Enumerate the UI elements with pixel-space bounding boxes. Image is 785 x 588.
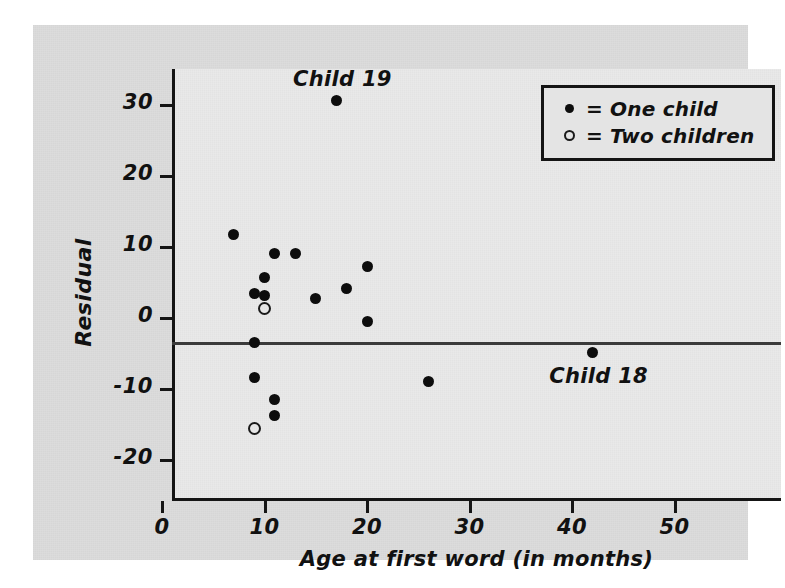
data-point-one-child	[259, 290, 270, 301]
x-tick	[469, 501, 472, 513]
x-tick	[366, 501, 369, 513]
x-tick-label: 20	[332, 515, 402, 539]
data-point-one-child	[249, 288, 260, 299]
zero-reference-line	[172, 342, 781, 345]
data-point-one-child	[249, 372, 260, 383]
y-tick-label: -20	[85, 445, 153, 469]
data-point-one-child	[269, 410, 280, 421]
y-tick-label: 30	[85, 90, 153, 114]
data-point-one-child	[290, 248, 301, 259]
point-annotation-child-18: Child 18	[549, 364, 648, 388]
legend-row: = One child	[560, 95, 754, 122]
y-tick	[160, 459, 173, 462]
point-annotation-child-19: Child 19	[293, 67, 392, 91]
y-tick-label: 20	[85, 161, 153, 185]
y-axis-title: Residual	[71, 238, 96, 346]
legend-row: = Two children	[560, 122, 754, 149]
y-tick	[160, 104, 173, 107]
legend-marker-glyph	[565, 104, 574, 113]
x-tick-label: 50	[640, 515, 710, 539]
x-axis-title: Age at first word (in months)	[172, 547, 781, 571]
y-tick	[160, 246, 173, 249]
data-point-one-child	[331, 95, 342, 106]
y-axis-line	[172, 69, 175, 501]
data-point-one-child	[249, 337, 260, 348]
data-point-one-child	[362, 316, 373, 327]
filled-circle-icon	[560, 104, 578, 113]
x-tick-label: 30	[435, 515, 505, 539]
figure-panel: 3020100-10-20 01020304050 Residual Age a…	[33, 25, 748, 560]
y-tick	[160, 175, 173, 178]
x-tick-label: 10	[230, 515, 300, 539]
data-point-two-children	[248, 422, 261, 435]
y-tick-label: -10	[85, 374, 153, 398]
x-tick	[161, 501, 164, 513]
data-point-one-child	[587, 347, 598, 358]
x-tick	[264, 501, 267, 513]
legend-box: = One child= Two children	[541, 85, 775, 161]
data-point-one-child	[228, 229, 239, 240]
data-point-one-child	[259, 272, 270, 283]
x-tick-label: 0	[127, 515, 197, 539]
residual-scatter-figure: 3020100-10-20 01020304050 Residual Age a…	[0, 0, 785, 588]
data-point-one-child	[362, 261, 373, 272]
data-point-two-children	[258, 302, 271, 315]
legend-marker-glyph	[564, 130, 575, 141]
legend-label: = One child	[586, 97, 718, 121]
x-tick-label: 40	[537, 515, 607, 539]
x-tick	[674, 501, 677, 513]
y-tick	[160, 317, 173, 320]
open-circle-icon	[560, 130, 578, 141]
legend-label: = Two children	[586, 124, 754, 148]
y-tick	[160, 388, 173, 391]
x-tick	[571, 501, 574, 513]
data-point-one-child	[423, 376, 434, 387]
